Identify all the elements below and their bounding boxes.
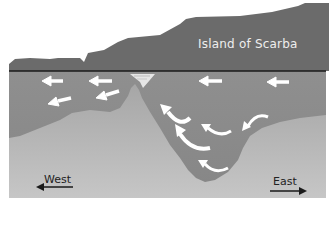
- island-label: Island of Scarba: [198, 37, 298, 51]
- west-label: West: [44, 173, 71, 186]
- east-label: East: [273, 175, 297, 188]
